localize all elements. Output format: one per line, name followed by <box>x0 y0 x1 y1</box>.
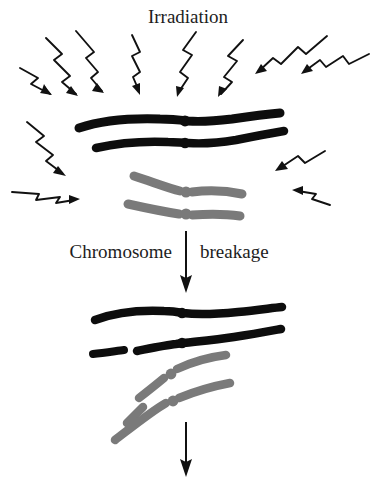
label-breakage: breakage <box>200 241 269 262</box>
chromosome-fragment <box>93 350 124 354</box>
irradiation-chromosome-breakage-diagram: Irradiation <box>0 0 377 498</box>
label-chromosome: Chromosome <box>70 241 172 262</box>
centromere-marker <box>180 116 191 127</box>
centromere-marker <box>181 209 192 220</box>
centromere-marker <box>180 138 190 148</box>
diagram-background <box>0 0 377 498</box>
centromere-marker <box>177 308 187 318</box>
diagram-canvas: Irradiation <box>0 0 377 498</box>
centromere-marker <box>166 369 177 380</box>
centromere-marker <box>177 338 187 348</box>
centromere-marker <box>181 187 192 198</box>
centromere-marker <box>168 396 179 407</box>
label-irradiation: Irradiation <box>148 6 229 27</box>
